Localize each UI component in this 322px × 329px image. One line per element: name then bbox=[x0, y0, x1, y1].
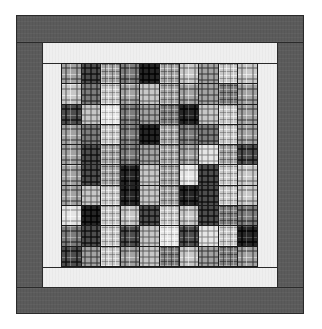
quilt-block bbox=[238, 84, 257, 103]
quilt-block bbox=[121, 84, 140, 103]
quilt-block bbox=[121, 226, 140, 245]
outer-border-top bbox=[16, 15, 304, 43]
quilt-block bbox=[180, 64, 199, 83]
quilt-block bbox=[160, 84, 179, 103]
quilt-block bbox=[140, 105, 159, 124]
quilt-block bbox=[140, 226, 159, 245]
quilt-block bbox=[160, 206, 179, 225]
quilt-block bbox=[62, 125, 81, 144]
quilt-block bbox=[180, 105, 199, 124]
quilt-block bbox=[101, 186, 120, 205]
quilt-block bbox=[160, 125, 179, 144]
quilt-block bbox=[219, 247, 238, 266]
quilt-block bbox=[238, 165, 257, 184]
outer-border-bottom bbox=[16, 287, 304, 314]
quilt-block bbox=[219, 105, 238, 124]
quilt-block bbox=[62, 64, 81, 83]
quilt-block bbox=[82, 247, 101, 266]
inner-border-top bbox=[42, 42, 278, 64]
quilt-block bbox=[160, 226, 179, 245]
quilt-block bbox=[121, 145, 140, 164]
quilt-block bbox=[62, 145, 81, 164]
quilt-block bbox=[101, 206, 120, 225]
quilt-block bbox=[82, 125, 101, 144]
quilt-block bbox=[101, 145, 120, 164]
quilt-block bbox=[82, 105, 101, 124]
quilt-block bbox=[82, 64, 101, 83]
quilt-block bbox=[160, 186, 179, 205]
quilt-block bbox=[101, 165, 120, 184]
quilt-block bbox=[101, 84, 120, 103]
quilt-block bbox=[62, 247, 81, 266]
quilt-block bbox=[199, 64, 218, 83]
quilt-block bbox=[238, 125, 257, 144]
quilt-block bbox=[140, 84, 159, 103]
outer-border-right bbox=[277, 42, 304, 288]
quilt-block bbox=[121, 206, 140, 225]
quilt-block bbox=[101, 226, 120, 245]
quilt-block bbox=[121, 247, 140, 266]
quilt-block bbox=[219, 226, 238, 245]
quilt-block bbox=[140, 145, 159, 164]
quilt-block bbox=[101, 125, 120, 144]
quilt-block bbox=[180, 125, 199, 144]
quilt-block bbox=[140, 64, 159, 83]
quilt-block bbox=[199, 145, 218, 164]
quilt-block bbox=[160, 145, 179, 164]
quilt-block bbox=[219, 125, 238, 144]
quilt-block bbox=[199, 84, 218, 103]
quilt-block bbox=[219, 145, 238, 164]
quilt-block bbox=[121, 64, 140, 83]
quilt-block bbox=[160, 165, 179, 184]
quilt-block bbox=[199, 247, 218, 266]
quilt-block bbox=[62, 105, 81, 124]
quilt-block bbox=[199, 226, 218, 245]
quilt-block bbox=[199, 105, 218, 124]
quilt-block bbox=[219, 84, 238, 103]
quilt-block bbox=[82, 84, 101, 103]
quilt-block bbox=[121, 165, 140, 184]
quilt-block bbox=[82, 206, 101, 225]
quilt-block bbox=[180, 84, 199, 103]
quilt-block bbox=[140, 165, 159, 184]
quilt-block bbox=[121, 186, 140, 205]
quilt-block bbox=[238, 206, 257, 225]
outer-border-left bbox=[16, 42, 43, 288]
quilt-block bbox=[160, 105, 179, 124]
quilt-block bbox=[62, 226, 81, 245]
quilt-block bbox=[238, 145, 257, 164]
quilt-block bbox=[180, 247, 199, 266]
quilt-block bbox=[160, 64, 179, 83]
quilt-block bbox=[62, 186, 81, 205]
quilt-block bbox=[121, 125, 140, 144]
quilt-block bbox=[140, 125, 159, 144]
quilt-block bbox=[82, 145, 101, 164]
quilt-block bbox=[140, 186, 159, 205]
quilt-block bbox=[238, 226, 257, 245]
quilt-block bbox=[199, 165, 218, 184]
quilt-block bbox=[160, 247, 179, 266]
inner-border-right bbox=[257, 63, 278, 268]
inner-border-left bbox=[42, 63, 62, 268]
quilt-block bbox=[199, 206, 218, 225]
quilt-block bbox=[219, 64, 238, 83]
quilt-block bbox=[101, 64, 120, 83]
quilt-block bbox=[199, 125, 218, 144]
inner-border-bottom bbox=[42, 267, 278, 288]
quilt-block bbox=[101, 105, 120, 124]
quilt-block bbox=[180, 186, 199, 205]
quilt-block bbox=[180, 165, 199, 184]
quilt-block bbox=[180, 206, 199, 225]
quilt-block bbox=[180, 145, 199, 164]
quilt-block bbox=[62, 165, 81, 184]
quilt-block bbox=[62, 84, 81, 103]
quilt-block bbox=[238, 105, 257, 124]
quilt-block bbox=[238, 186, 257, 205]
quilt-block bbox=[219, 165, 238, 184]
quilt-block bbox=[101, 247, 120, 266]
quilt-block bbox=[219, 206, 238, 225]
quilt-block bbox=[238, 247, 257, 266]
quilt-block bbox=[62, 206, 81, 225]
quilt-block bbox=[199, 186, 218, 205]
quilt-block bbox=[82, 226, 101, 245]
